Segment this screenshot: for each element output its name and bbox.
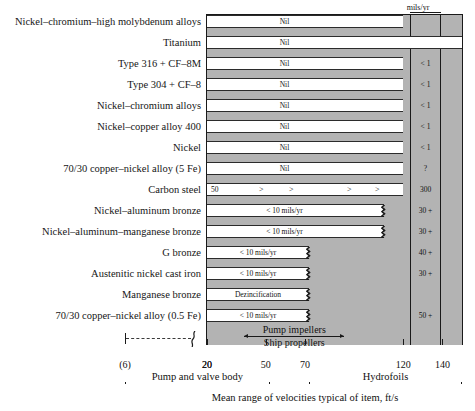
category-label: Nickel–aluminum bronze bbox=[0, 205, 204, 216]
category-label: G bronze bbox=[0, 247, 204, 258]
greater-than-mark: > bbox=[375, 184, 380, 196]
bar-label: Nil bbox=[207, 163, 362, 175]
bar-label: Nil bbox=[207, 16, 362, 28]
x-tick bbox=[207, 339, 208, 345]
data-bar: 50>>>> bbox=[207, 183, 403, 196]
bar-label: Dezincification bbox=[207, 289, 309, 301]
x-tick-label-20: 20 bbox=[187, 359, 227, 370]
broken-end-marker bbox=[306, 267, 311, 280]
chart-root: Nickel–chromium–high molybdenum alloysTi… bbox=[0, 0, 475, 411]
category-label: Nickel–aluminum–manganese bronze bbox=[0, 226, 204, 237]
bar-label: < 10 mils/yr bbox=[207, 268, 309, 280]
data-bar: Nil bbox=[207, 162, 403, 175]
category-label: Type 304 + CF–8 bbox=[0, 79, 204, 90]
data-bar: Nil bbox=[207, 57, 403, 70]
bar-label: < 10 mils/yr bbox=[207, 310, 309, 322]
broken-end-marker bbox=[381, 225, 386, 238]
bar-label: < 10 mils/yr bbox=[207, 247, 309, 259]
mils-per-year-header: mils/yr bbox=[396, 3, 440, 12]
x-tick-label: 140 bbox=[422, 359, 462, 370]
bar-label: Nil bbox=[207, 79, 362, 91]
x-tick-label: 120 bbox=[383, 359, 423, 370]
broken-end-marker bbox=[306, 246, 311, 259]
broken-end-marker bbox=[381, 204, 386, 217]
x-tick bbox=[442, 339, 443, 345]
plot-annotation: Pump impellers bbox=[224, 324, 364, 335]
bar-label: < 10 mils/yr bbox=[207, 226, 362, 238]
greater-than-mark: > bbox=[289, 184, 294, 196]
value-cell: < 1 bbox=[411, 141, 440, 154]
column-rule-140 bbox=[440, 14, 441, 345]
value-cell: < 1 bbox=[411, 57, 440, 70]
bar-label: Nil bbox=[207, 58, 362, 70]
category-label: Manganese bronze bbox=[0, 289, 204, 300]
bar-label: Nil bbox=[207, 37, 362, 49]
value-cell: < 1 bbox=[411, 78, 440, 91]
data-bar: Nil bbox=[207, 36, 462, 49]
data-bar: Nil bbox=[207, 78, 403, 91]
data-bar: Nil bbox=[207, 15, 403, 28]
category-label: 70/30 copper–nickel alloy (0.5 Fe) bbox=[0, 310, 204, 321]
data-bar: < 10 mils/yr bbox=[207, 267, 309, 280]
category-label-column: Nickel–chromium–high molybdenum alloysTi… bbox=[0, 0, 204, 411]
bar-label: Nil bbox=[207, 142, 362, 154]
bar-label: 50 bbox=[211, 184, 219, 196]
x-tick bbox=[403, 339, 404, 345]
category-label: Titanium bbox=[0, 37, 204, 48]
x-tick-label: 70 bbox=[285, 359, 325, 370]
x-tick-label-6: (6) bbox=[105, 359, 145, 370]
value-cell: 30 + bbox=[411, 225, 440, 238]
category-label: 70/30 copper–nickel alloy (5 Fe) bbox=[0, 163, 204, 174]
data-bar: Nil bbox=[207, 120, 403, 133]
value-cell: ? bbox=[411, 162, 440, 175]
x-tick-label: 50 bbox=[246, 359, 286, 370]
axis-break-symbol bbox=[190, 331, 198, 351]
x-tick bbox=[305, 339, 306, 345]
range-label: Pump and valve body bbox=[125, 371, 270, 382]
axis-caption: Mean range of velocities typical of item… bbox=[145, 392, 465, 404]
value-cell: 300 bbox=[411, 183, 440, 196]
data-bar: < 10 mils/yr bbox=[207, 246, 309, 259]
axis-break-dashed-line bbox=[126, 338, 191, 339]
value-cell: 40 + bbox=[411, 246, 440, 259]
value-cell: 30 + bbox=[411, 204, 440, 217]
data-bar: < 10 mils/yr bbox=[207, 309, 309, 322]
mils-header-underline bbox=[410, 12, 441, 13]
data-bar: Dezincification bbox=[207, 288, 309, 301]
greater-than-mark: > bbox=[259, 184, 264, 196]
value-cell: 30 + bbox=[411, 267, 440, 280]
category-label: Nickel bbox=[0, 142, 204, 153]
value-cell: < 1 bbox=[411, 99, 440, 112]
category-label: Nickel–chromium alloys bbox=[0, 100, 204, 111]
plot-annotation: Ship propellers bbox=[224, 337, 364, 348]
broken-end-marker bbox=[306, 309, 311, 322]
value-cell: 50 + bbox=[411, 309, 440, 322]
bar-label: Nil bbox=[207, 121, 362, 133]
category-label: Nickel–chromium–high molybdenum alloys bbox=[0, 16, 204, 27]
bar-label: < 10 mils/yr bbox=[207, 205, 362, 217]
data-bar: Nil bbox=[207, 99, 403, 112]
data-bar: < 10 mils/yr bbox=[207, 225, 384, 238]
bar-label: Nil bbox=[207, 100, 362, 112]
plot-right-rule bbox=[462, 14, 463, 345]
data-bar: Nil bbox=[207, 141, 403, 154]
range-label: Hydrofoils bbox=[309, 371, 462, 382]
category-label: Nickel–copper alloy 400 bbox=[0, 121, 204, 132]
category-label: Carbon steel bbox=[0, 184, 204, 195]
value-cell: < 1 bbox=[411, 120, 440, 133]
category-label: Austenitic nickel cast iron bbox=[0, 268, 204, 279]
greater-than-mark: > bbox=[347, 184, 352, 196]
x-tick bbox=[266, 339, 267, 345]
category-label: Type 316 + CF–8M bbox=[0, 58, 204, 69]
data-bar: < 10 mils/yr bbox=[207, 204, 384, 217]
broken-end-marker bbox=[306, 288, 311, 301]
